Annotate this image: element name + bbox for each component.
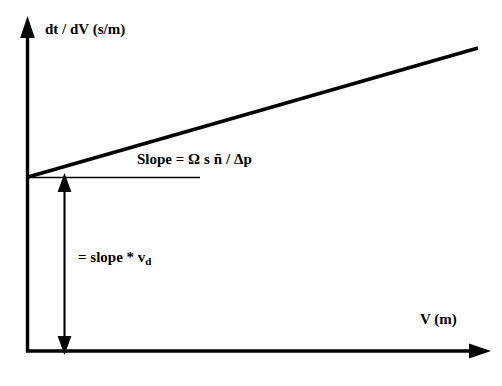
slope-equation-omega: Ω — [188, 151, 200, 167]
slope-equation-prefix: Slope = — [137, 151, 188, 167]
measure-arrowhead-up-icon — [58, 173, 72, 192]
slope-equation-divider: / — [226, 151, 230, 167]
slope-equation-p: p — [243, 151, 251, 167]
slope-equation-s: s — [204, 151, 210, 167]
x-axis — [26, 344, 491, 359]
y-axis-arrowhead-icon — [20, 16, 35, 38]
y-axis-label: dt / dV (s/m) — [45, 22, 125, 37]
figure-canvas: dt / dV (s/m) V (m) Slope = Ωsñ/Δp = slo… — [0, 0, 502, 386]
data-line-dtdv — [28, 48, 478, 177]
intercept-equation-subscript: d — [145, 255, 151, 267]
x-axis-arrowhead-icon — [469, 344, 491, 359]
slope-equation-delta: Δ — [234, 151, 243, 167]
slope-equation-n-tilde: ñ — [214, 151, 222, 167]
x-axis-label: V (m) — [420, 312, 457, 327]
intercept-equation-prefix: = slope * v — [78, 249, 145, 265]
intercept-equation-annotation: = slope * vd — [78, 250, 151, 267]
y-axis — [20, 16, 35, 352]
intercept-measure-arrow — [58, 173, 72, 355]
slope-equation-annotation: Slope = Ωsñ/Δp — [137, 152, 252, 167]
plot-area — [0, 0, 502, 386]
